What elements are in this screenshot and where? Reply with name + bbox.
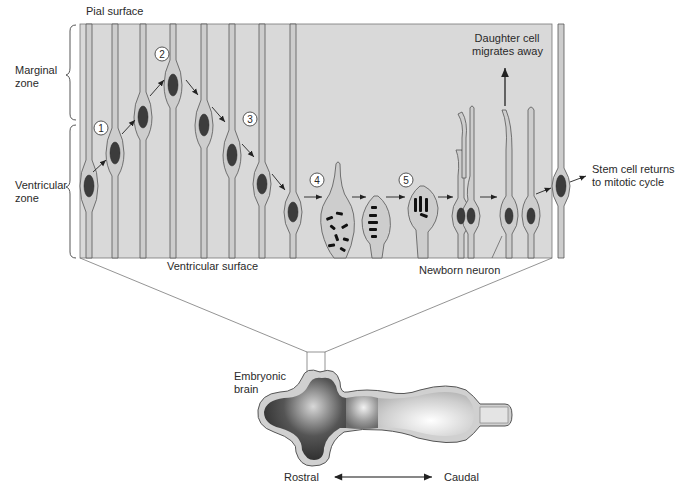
neurogenesis-diagram	[0, 0, 687, 491]
stem-cell-label-1: Stem cell returns	[592, 163, 675, 176]
ventricular-zone-label-1: Ventricular	[15, 179, 67, 192]
step-4-number: 4	[310, 174, 324, 187]
ventricular-tissue-block	[80, 24, 552, 258]
ventricular-zone-label-2: zone	[15, 192, 39, 205]
step-5-number: 5	[399, 174, 413, 187]
embryonic-brain-label-1: Embryonic	[234, 370, 286, 383]
pial-surface-label: Pial surface	[86, 5, 143, 18]
newborn-neuron-label: Newborn neuron	[419, 264, 500, 277]
stem-cell-label-2: to mitotic cycle	[592, 176, 664, 189]
embryonic-brain-label-2: brain	[234, 383, 258, 396]
caudal-label: Caudal	[444, 471, 479, 484]
ventricular-surface-label: Ventricular surface	[167, 260, 258, 273]
marginal-zone-label-2: zone	[15, 77, 39, 90]
rostral-label: Rostral	[284, 471, 319, 484]
daughter-cell-label-2: migrates away	[472, 45, 542, 58]
embryonic-brain	[258, 370, 512, 466]
step-1-number: 1	[94, 122, 108, 135]
zone-brackets	[66, 25, 76, 258]
marginal-zone-label-1: Marginal	[15, 64, 57, 77]
step-3-number: 3	[243, 113, 257, 126]
step-2-number: 2	[155, 48, 169, 61]
daughter-cell-label-1: Daughter cell	[472, 32, 542, 45]
